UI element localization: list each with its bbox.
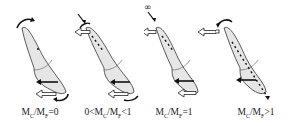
- movement-arrow-icon: [144, 28, 156, 36]
- panel-translation: ∞ MC/MF=1: [144, 0, 216, 126]
- tooth-diagram-3: ∞: [144, 0, 216, 106]
- panel-root-movement: MC/MF>1: [216, 0, 291, 126]
- tooth-diagram-2: [72, 0, 144, 106]
- ratio-label-3: MC/MF=1: [155, 107, 192, 119]
- panel-uncontrolled-tipping: MC/MF=0: [0, 0, 72, 126]
- ratio-label-2: 0<MC/MF<1: [84, 107, 131, 119]
- moment-arrow-icon: [218, 20, 232, 26]
- panel-controlled-tipping: 0<MC/MF<1: [72, 0, 144, 126]
- tooth-diagram-1: [0, 0, 72, 106]
- moment-arrow-icon: [17, 19, 32, 28]
- ratio-label-4: MC/MF>1: [237, 107, 274, 119]
- center-of-resistance-dot: [37, 48, 39, 50]
- tooth-diagram-4: [216, 0, 291, 106]
- ratio-label-1: MC/MF=0: [21, 107, 58, 119]
- infinity-icon: ∞: [144, 2, 152, 12]
